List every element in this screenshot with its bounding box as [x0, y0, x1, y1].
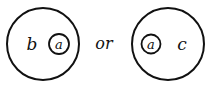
left-outer-label: b: [27, 34, 38, 54]
left-set: b a: [7, 8, 79, 80]
right-outer-label: c: [177, 34, 187, 54]
right-inner-label: a: [147, 37, 155, 52]
set-diagram: b a or a c: [0, 0, 209, 87]
left-inner-label: a: [55, 37, 63, 52]
or-connector: or: [95, 34, 114, 53]
right-outer-circle: [132, 8, 204, 80]
right-set: a c: [132, 8, 204, 80]
